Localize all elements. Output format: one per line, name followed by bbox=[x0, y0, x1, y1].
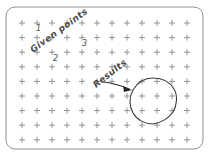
grid-point-plus-icon bbox=[184, 93, 190, 99]
grid-point-plus-icon bbox=[139, 93, 145, 99]
grid-point-plus-icon bbox=[124, 93, 130, 99]
grid-point-plus-icon bbox=[34, 122, 40, 128]
grid-point-plus-icon bbox=[139, 20, 145, 26]
grid-point-plus-icon bbox=[34, 108, 40, 114]
grid-point-plus-icon bbox=[64, 137, 70, 143]
grid-point-plus-icon bbox=[94, 64, 100, 70]
grid-point-plus-icon bbox=[184, 108, 190, 114]
grid-point-plus-icon bbox=[19, 93, 25, 99]
grid-point-plus-icon bbox=[154, 137, 160, 143]
grid-point-plus-icon bbox=[79, 122, 85, 128]
grid-point-plus-icon bbox=[109, 49, 115, 55]
grid-point-plus-icon bbox=[49, 108, 55, 114]
grid-point-plus-icon bbox=[94, 35, 100, 41]
grid-point-plus-icon bbox=[124, 49, 130, 55]
grid-point-plus-icon bbox=[124, 122, 130, 128]
grid-point-plus-icon bbox=[169, 93, 175, 99]
grid-point-plus-icon bbox=[184, 49, 190, 55]
grid-point-plus-icon bbox=[124, 108, 130, 114]
grid-point-plus-icon bbox=[79, 137, 85, 143]
grid-point-plus-icon bbox=[169, 64, 175, 70]
grid-point-plus-icon bbox=[34, 93, 40, 99]
grid-point-plus-icon bbox=[34, 64, 40, 70]
grid-point-plus-icon bbox=[124, 20, 130, 26]
grid-point-plus-icon bbox=[169, 35, 175, 41]
grid-point-plus-icon bbox=[49, 137, 55, 143]
grid-point-plus-icon bbox=[154, 78, 160, 84]
grid-point-plus-icon bbox=[79, 64, 85, 70]
grid-point-plus-icon bbox=[19, 122, 25, 128]
grid-point-plus-icon bbox=[19, 20, 25, 26]
grid-point-plus-icon bbox=[49, 93, 55, 99]
grid-point-plus-icon bbox=[154, 35, 160, 41]
annotation-label-results: Results bbox=[91, 57, 129, 90]
grid-point-plus-icon bbox=[19, 35, 25, 41]
grid-point-plus-icon bbox=[169, 122, 175, 128]
grid-point-plus-icon bbox=[19, 49, 25, 55]
grid-point-plus-icon bbox=[169, 49, 175, 55]
grid-point-plus-icon bbox=[124, 35, 130, 41]
grid-point-plus-icon bbox=[64, 78, 70, 84]
grid-point-plus-icon bbox=[124, 137, 130, 143]
grid-point-plus-icon bbox=[169, 20, 175, 26]
grid-point-plus-icon bbox=[184, 35, 190, 41]
annotation-labels: Given pointsResults bbox=[28, 6, 129, 89]
grid-point-plus-icon bbox=[79, 93, 85, 99]
grid-point-plus-icon bbox=[109, 20, 115, 26]
grid-point-plus-icon bbox=[139, 64, 145, 70]
grid-point-plus-icon bbox=[184, 137, 190, 143]
grid-point-plus-icon bbox=[79, 108, 85, 114]
grid-point-plus-icon bbox=[19, 64, 25, 70]
figure-canvas: Given pointsResults 123 bbox=[0, 0, 210, 158]
grid-point-plus-icon bbox=[109, 93, 115, 99]
grid-point-plus-icon bbox=[64, 49, 70, 55]
grid-point-plus-icon bbox=[34, 78, 40, 84]
point-number-1: 1 bbox=[36, 24, 41, 33]
grid-point-plus-icon bbox=[94, 108, 100, 114]
result-circle-path bbox=[130, 78, 177, 124]
grid-point-plus-icon bbox=[139, 122, 145, 128]
grid-point-plus-icon bbox=[49, 20, 55, 26]
grid-point-plus-icon bbox=[154, 64, 160, 70]
grid-point-plus-icon bbox=[109, 108, 115, 114]
grid-point-plus-icon bbox=[94, 122, 100, 128]
grid-point-plus-icon bbox=[124, 78, 130, 84]
grid-point-plus-icon bbox=[19, 108, 25, 114]
grid-point-plus-icon bbox=[154, 49, 160, 55]
point-number-3: 3 bbox=[82, 39, 87, 48]
grid-point-plus-icon bbox=[34, 137, 40, 143]
result-circle bbox=[130, 78, 177, 124]
grid-point-plus-icon bbox=[94, 20, 100, 26]
grid-point-plus-icon bbox=[64, 108, 70, 114]
results-arrow bbox=[104, 82, 132, 92]
grid-point-plus-icon bbox=[154, 93, 160, 99]
grid-point-plus-icon bbox=[49, 78, 55, 84]
grid-point-plus-icon bbox=[94, 137, 100, 143]
point-number-2: 2 bbox=[53, 54, 58, 63]
grid-point-plus-icon bbox=[139, 108, 145, 114]
grid-point-plus-icon bbox=[94, 49, 100, 55]
grid-point-plus-icon bbox=[19, 78, 25, 84]
grid-point-plus-icon bbox=[49, 122, 55, 128]
grid-point-plus-icon bbox=[64, 64, 70, 70]
grid-point-plus-icon bbox=[184, 20, 190, 26]
grid-point-plus-icon bbox=[109, 35, 115, 41]
grid-point-plus-icon bbox=[139, 49, 145, 55]
grid-point-plus-icon bbox=[79, 78, 85, 84]
grid-point-plus-icon bbox=[139, 35, 145, 41]
grid-point-plus-icon bbox=[184, 64, 190, 70]
results-arrow-head bbox=[123, 86, 132, 92]
grid-point-plus-icon bbox=[79, 49, 85, 55]
grid-point-plus-icon bbox=[49, 64, 55, 70]
grid-point-plus-icon bbox=[94, 93, 100, 99]
grid-point-plus-icon bbox=[169, 137, 175, 143]
grid-point-plus-icon bbox=[64, 122, 70, 128]
grid-point-plus-icon bbox=[139, 137, 145, 143]
grid-point-plus-icon bbox=[109, 122, 115, 128]
sketch-figure: Given pointsResults 123 bbox=[0, 0, 210, 158]
grid-point-plus-icon bbox=[184, 78, 190, 84]
grid-point-plus-icon bbox=[19, 137, 25, 143]
grid-point-plus-icon bbox=[64, 93, 70, 99]
grid-point-plus-icon bbox=[154, 108, 160, 114]
grid-point-plus-icon bbox=[64, 35, 70, 41]
